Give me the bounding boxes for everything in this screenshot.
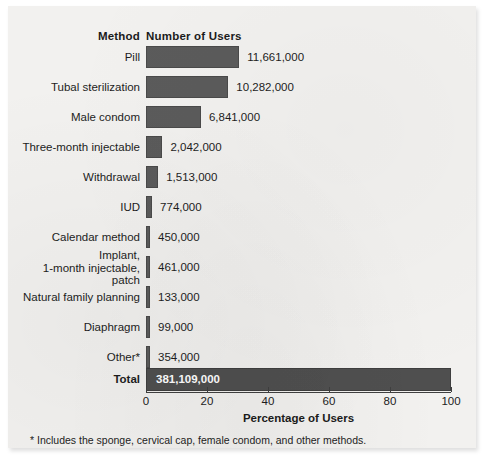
bar-row-label-line: Total <box>8 373 140 386</box>
bar <box>146 346 150 368</box>
bar-value-label: 774,000 <box>160 201 202 213</box>
x-axis-tick <box>146 387 147 392</box>
bar-row-label: Natural family planning <box>8 291 140 304</box>
bar-row-label: Three-month injectable <box>8 141 140 154</box>
bar <box>146 196 152 218</box>
bar <box>146 316 150 338</box>
bar <box>146 46 239 68</box>
bar-row-label-line: Withdrawal <box>8 171 140 184</box>
column-header-number-of-users: Number of Users <box>146 30 242 42</box>
bar-row-label-line: Other* <box>8 351 140 364</box>
horizontal-bar-chart: Method Number of Users Pill11,661,000Tub… <box>8 6 476 448</box>
bar-row-label-line: Three-month injectable <box>8 141 140 154</box>
bar-row-label: Male condom <box>8 111 140 124</box>
bar <box>146 226 150 248</box>
x-axis-tick-label: 60 <box>323 395 336 407</box>
chart-panel: Method Number of Users Pill11,661,000Tub… <box>8 6 476 448</box>
x-axis-tick <box>268 387 269 392</box>
x-axis-line <box>146 392 451 393</box>
bar-row-label: Pill <box>8 51 140 64</box>
bar-row-label: Diaphragm <box>8 321 140 334</box>
bar-row-label: Calendar method <box>8 231 140 244</box>
bar <box>146 76 228 98</box>
column-header-method: Method <box>8 30 140 42</box>
bar-value-label: 450,000 <box>158 231 200 243</box>
bar-row-label-line: Pill <box>8 51 140 64</box>
bar <box>146 166 158 188</box>
bar-row-label: Withdrawal <box>8 171 140 184</box>
bar-row-label-line: Tubal sterilization <box>8 81 140 94</box>
bar-row-label: Tubal sterilization <box>8 81 140 94</box>
bar-value-label: 2,042,000 <box>170 141 221 153</box>
x-axis-tick <box>451 387 452 392</box>
bar <box>146 136 162 158</box>
bar <box>146 286 150 308</box>
x-axis-tick <box>329 387 330 392</box>
x-axis-tick-label: 20 <box>201 395 214 407</box>
bar-value-label: 10,282,000 <box>236 81 294 93</box>
bar-row-label-line: Natural family planning <box>8 291 140 304</box>
bar-row-label-line: Male condom <box>8 111 140 124</box>
bar-row-label: Other* <box>8 351 140 364</box>
x-axis-tick <box>390 387 391 392</box>
bar <box>146 106 201 128</box>
bar-row-label: IUD <box>8 201 140 214</box>
x-axis-tick <box>207 387 208 392</box>
bar-row-label: Total <box>8 373 140 386</box>
bar-row-label-line: Diaphragm <box>8 321 140 334</box>
x-axis-tick-label: 100 <box>441 395 460 407</box>
footnote: * Includes the sponge, cervical cap, fem… <box>30 434 366 446</box>
bar-value-label: 133,000 <box>158 291 200 303</box>
bar-value-label: 381,109,000 <box>156 373 220 385</box>
bar-row-label-line: Implant, <box>8 249 140 262</box>
bar-value-label: 354,000 <box>158 351 200 363</box>
bar-value-label: 99,000 <box>158 321 193 333</box>
bar-row-label: Implant,1-month injectable,patch <box>8 249 140 287</box>
bar-row-label-line: IUD <box>8 201 140 214</box>
bar <box>146 256 150 278</box>
figure-container: Method Number of Users Pill11,661,000Tub… <box>0 0 492 467</box>
bar-value-label: 1,513,000 <box>166 171 217 183</box>
bar-value-label: 6,841,000 <box>209 111 260 123</box>
bar-value-label: 461,000 <box>158 261 200 273</box>
bar-row-label-line: Calendar method <box>8 231 140 244</box>
x-axis-tick-label: 80 <box>384 395 397 407</box>
x-axis-tick-label: 40 <box>262 395 275 407</box>
x-axis-label: Percentage of Users <box>146 412 451 424</box>
bar-value-label: 11,661,000 <box>247 51 304 63</box>
bar-row-label-line: patch <box>8 274 140 287</box>
x-axis-tick-label: 0 <box>143 395 149 407</box>
bar-row-label-line: 1-month injectable, <box>8 262 140 275</box>
